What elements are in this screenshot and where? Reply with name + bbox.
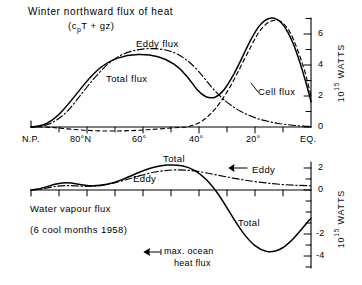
x-tick-80n: 80°N — [70, 134, 91, 144]
lower-x-ticks — [59, 190, 283, 196]
subtitle-pre: (c — [68, 20, 77, 31]
lower-y-tick-2: 2 — [318, 162, 323, 172]
upper-units-pre: 10 — [336, 91, 346, 103]
subtitle-post: T + gz) — [81, 20, 114, 31]
eddy-pointer-arrow — [230, 165, 248, 171]
curve-total-flux — [31, 18, 311, 127]
upper-y-axis-units: 1015 WATTS — [333, 44, 346, 102]
label-eddy-flux: Eddy flux — [136, 38, 179, 49]
label-total-flux: Total flux — [106, 73, 148, 84]
upper-panel-title: Winter northward flux of heat — [28, 6, 173, 17]
lower-units-post: WATTS — [336, 190, 346, 228]
lower-y-tick-minus2: -2 — [316, 228, 325, 238]
lower-panel-caption-line2: (6 cool months 1958) — [30, 224, 127, 235]
upper-y-tick-6: 6 — [318, 28, 323, 38]
x-tick-eq: EQ. — [300, 134, 316, 144]
upper-y-tick-0: 0 — [318, 121, 323, 131]
lower-units-exponent: 15 — [333, 228, 340, 237]
x-tick-60: 60° — [132, 134, 147, 144]
x-tick-20: 20° — [246, 134, 261, 144]
max-ocean-heat-flux-arrow — [145, 249, 162, 255]
upper-units-post: WATTS — [336, 44, 346, 82]
upper-units-exponent: 15 — [333, 82, 340, 91]
x-tick-40: 40° — [189, 134, 204, 144]
lower-units-pre: 10 — [336, 237, 346, 249]
label-total-bottom: Total — [238, 217, 260, 228]
annotation-max-ocean-heat-flux-line2: heat flux — [174, 258, 211, 269]
curve-cell-flux — [31, 20, 311, 131]
label-total-top: Total — [163, 153, 185, 164]
label-eddy-left: Eddy — [133, 173, 156, 184]
x-tick-np: N.P. — [22, 134, 40, 144]
upper-panel-subtitle: (cpT + gz) — [68, 20, 114, 33]
label-cell-flux: Cell flux — [258, 86, 295, 97]
lower-panel-caption-line1: Water vapour flux — [30, 203, 111, 214]
annotation-max-ocean-heat-flux-line1: max. ocean — [164, 246, 214, 257]
lower-y-axis-units: 1015 WATTS — [333, 190, 346, 248]
upper-y-tick-2: 2 — [318, 90, 323, 100]
figure-container: Winter northward flux of heat (cpT + gz)… — [0, 0, 362, 285]
cell-flux-leader — [251, 83, 258, 92]
upper-y-tick-4: 4 — [318, 59, 323, 69]
lower-y-tick-minus4: -4 — [316, 250, 325, 260]
lower-y-tick-0: 0 — [318, 184, 323, 194]
label-eddy-right: Eddy — [252, 164, 275, 175]
